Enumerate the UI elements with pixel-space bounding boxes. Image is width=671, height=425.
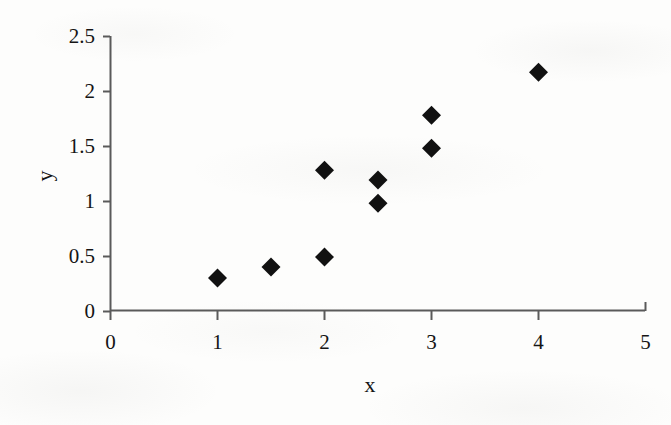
data-point — [208, 269, 227, 288]
y-tick-label-2-5: 2.5 — [40, 24, 95, 49]
x-tick-label-5: 5 — [625, 330, 666, 355]
x-axis-title: x — [357, 372, 383, 398]
x-tick-label-2: 2 — [304, 330, 345, 355]
scatter-plot-figure: 0 0.5 1 1.5 2 2.5 0 1 2 3 4 5 y x — [0, 0, 671, 425]
data-point-group — [208, 63, 548, 288]
y-tick-label-2: 2 — [40, 79, 95, 104]
y-tick-label-0: 0 — [40, 299, 95, 324]
data-point — [369, 194, 388, 213]
data-point — [315, 248, 334, 267]
data-point — [422, 106, 441, 125]
x-tick-label-3: 3 — [411, 330, 452, 355]
y-tick-label-1: 1 — [40, 189, 95, 214]
data-point — [369, 171, 388, 190]
data-point — [262, 258, 281, 277]
y-axis-ticks — [103, 37, 110, 312]
x-tick-label-1: 1 — [197, 330, 238, 355]
data-point — [315, 161, 334, 180]
x-tick-label-0: 0 — [90, 330, 131, 355]
y-tick-label-1-5: 1.5 — [40, 134, 95, 159]
x-tick-label-4: 4 — [518, 330, 559, 355]
y-tick-label-0-5: 0.5 — [40, 244, 95, 269]
y-axis-title: y — [32, 163, 58, 189]
data-point — [529, 63, 548, 82]
data-point — [422, 139, 441, 158]
plot-canvas — [0, 0, 671, 425]
